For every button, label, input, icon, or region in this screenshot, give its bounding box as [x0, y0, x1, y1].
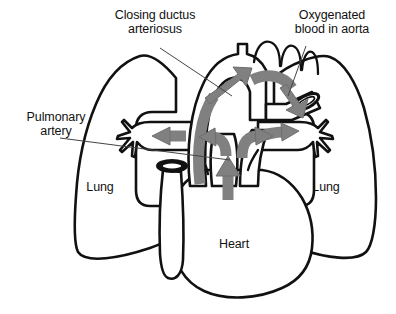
- label-lung-right: Lung: [292, 180, 360, 194]
- figure-canvas: .organ { fill:#ffffff; stroke:#111111; s…: [0, 0, 396, 314]
- label-closing-ductus-arteriosus: Closing ductus arteriosus: [96, 8, 214, 36]
- label-pulmonary-artery: Pulmonary artery: [4, 110, 108, 138]
- label-oxygenated-blood-in-aorta: Oxygenated blood in aorta: [272, 8, 392, 36]
- anatomy-diagram: .organ { fill:#ffffff; stroke:#111111; s…: [0, 0, 396, 314]
- label-heart: Heart: [196, 237, 272, 251]
- vena-cava-cross-section: [157, 160, 187, 172]
- descending-vessel: [160, 170, 184, 279]
- label-lung-left: Lung: [66, 180, 134, 194]
